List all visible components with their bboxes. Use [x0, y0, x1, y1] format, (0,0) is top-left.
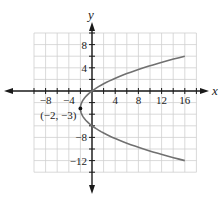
x-tick-label: 16 [179, 94, 191, 106]
y-tick-label: −8 [75, 131, 87, 143]
x-tick-label: 12 [156, 94, 167, 106]
y-tick-label: 8 [82, 39, 88, 51]
x-tick-label: 8 [136, 94, 142, 106]
x-tick-label: −8 [40, 94, 52, 106]
vertex-point [79, 107, 83, 111]
y-axis-down-arrow-icon [89, 185, 95, 194]
parabola-curve [80, 56, 184, 160]
axes [4, 22, 209, 194]
y-tick-label: 4 [82, 62, 88, 74]
vertex-label: (−2, −3) [40, 109, 77, 122]
x-axis-right-arrow-icon [200, 88, 209, 94]
x-axis-label: x [211, 83, 218, 98]
x-tick-label: 4 [112, 94, 118, 106]
parabola-graph: (−2, −3) x y −8−448121684−8−12 [0, 0, 219, 208]
y-axis-up-arrow-icon [89, 22, 95, 31]
y-tick-label: −12 [70, 155, 87, 167]
x-tick-label: −4 [63, 94, 75, 106]
y-axis-label: y [86, 7, 94, 22]
x-axis-left-arrow-icon [4, 88, 13, 94]
